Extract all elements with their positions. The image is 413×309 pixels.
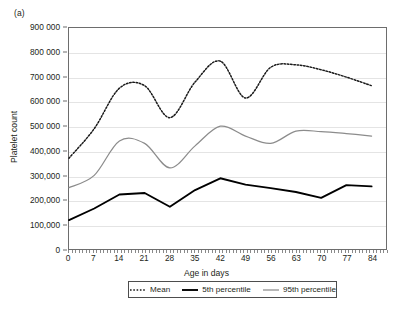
y-axis-title: Platelet count — [9, 111, 19, 163]
legend-item-mean[interactable]: Mean — [129, 285, 170, 294]
x-axis-tick-label: 35 — [190, 253, 199, 263]
x-axis-tick-label: 14 — [114, 253, 123, 263]
x-axis-tick-label: 56 — [266, 253, 275, 263]
y-axis-tick-label: 900 000 — [30, 22, 60, 32]
x-axis-tick-label: 70 — [317, 253, 326, 263]
y-axis-tick-label: 500 000 — [30, 121, 60, 131]
x-axis-tick-label: 28 — [165, 253, 174, 263]
legend-swatch-dotted — [129, 286, 147, 294]
y-axis-tick-label: 600 000 — [30, 96, 60, 106]
series-layer — [69, 28, 386, 249]
x-axis-title: Age in days — [0, 268, 413, 278]
x-axis-tick-label: 77 — [343, 253, 352, 263]
legend-label: 5th percentile — [202, 285, 251, 294]
plot-area — [68, 27, 387, 250]
x-axis-tick-label: 21 — [140, 253, 149, 263]
y-axis-tick-mark — [63, 51, 67, 52]
y-axis-tick-mark — [63, 101, 67, 102]
legend-swatch-solid-thin — [262, 286, 280, 294]
x-axis-tick-label: 0 — [66, 253, 71, 263]
y-axis-tick-mark — [63, 175, 67, 176]
y-axis-tick-label: 800 000 — [30, 47, 60, 57]
y-axis-tick-mark — [63, 225, 67, 226]
y-axis-tick-mark — [63, 250, 67, 251]
figure-panel: (a) 900 000800 000700 000600 000500 0004… — [0, 0, 413, 309]
series-line-5th-percentile — [69, 178, 372, 220]
legend-label: 95th percentile — [283, 285, 336, 294]
chart-legend: Mean5th percentile95th percentile — [128, 281, 337, 298]
legend-item-95th-percentile[interactable]: 95th percentile — [262, 285, 336, 294]
y-axis-tick-label: 400,000 — [30, 146, 60, 156]
x-axis-tick-label: 49 — [241, 253, 250, 263]
x-axis-tick-label: 63 — [292, 253, 301, 263]
y-axis-tick-mark — [63, 150, 67, 151]
y-axis-tick-mark — [63, 126, 67, 127]
legend-label: Mean — [150, 285, 170, 294]
legend-item-5th-percentile[interactable]: 5th percentile — [181, 285, 251, 294]
y-axis-tick-label: 100,000 — [30, 220, 60, 230]
y-axis-tick-mark — [63, 200, 67, 201]
x-axis: 071421283542495663707784 — [68, 253, 387, 267]
x-axis-tick-label: 42 — [216, 253, 225, 263]
x-axis-tick-label: 84 — [368, 253, 377, 263]
y-axis-tick-label: 300,000 — [30, 171, 60, 181]
y-axis-tick-mark — [63, 76, 67, 77]
y-axis-tick-label: 700 000 — [30, 72, 60, 82]
series-line-mean — [69, 61, 372, 158]
y-axis-tick-mark — [63, 27, 67, 28]
y-axis-tick-label: 0 — [55, 245, 60, 255]
y-axis-tick-label: 200,000 — [30, 195, 60, 205]
x-axis-tick-label: 7 — [91, 253, 96, 263]
legend-swatch-solid-thick — [181, 286, 199, 294]
